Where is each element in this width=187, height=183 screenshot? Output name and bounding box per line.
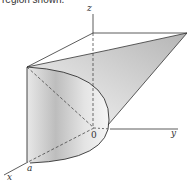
z-label: z (86, 3, 92, 13)
x-label: x (7, 172, 12, 182)
solid-figure: z y x 0 a (0, 0, 187, 183)
a-label: a (27, 163, 32, 173)
origin-label: 0 (91, 130, 97, 140)
y-label: y (170, 128, 177, 138)
